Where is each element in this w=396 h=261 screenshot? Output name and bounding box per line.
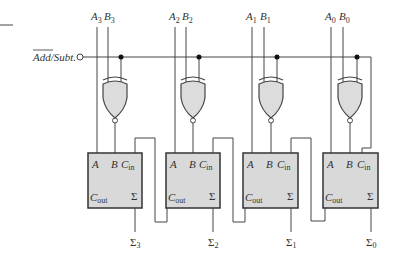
xor-gate-back-arc	[338, 77, 362, 80]
add-subt-control-label: Add/Subt.	[32, 50, 76, 63]
control-bus	[83, 57, 371, 153]
control-input-terminal	[77, 54, 83, 60]
fa-input-a-label: A	[91, 158, 99, 170]
junction-dot	[355, 55, 360, 60]
b3-label: B3	[104, 10, 115, 25]
xnor-gate-icon	[181, 81, 205, 118]
a3-label: A3	[90, 10, 102, 25]
junction-dot	[197, 55, 202, 60]
a1-label: A1	[245, 10, 257, 25]
xor-gate-back-arc	[103, 77, 127, 80]
b2-label: B2	[182, 10, 193, 25]
fa-input-b-label: B	[346, 158, 353, 170]
xor-gate-back-arc	[181, 77, 205, 80]
xnor-gate-icon	[103, 81, 127, 118]
sum1-output-label: Σ1	[286, 236, 296, 250]
junction-dot	[275, 55, 280, 60]
fa-sum-label: Σ	[131, 190, 137, 202]
fa-sum-label: Σ	[367, 190, 373, 202]
inverter-bubble	[191, 118, 196, 123]
sum2-output-label: Σ2	[208, 236, 218, 250]
xor-gate-back-arc	[259, 77, 283, 80]
b0-label: B0	[339, 10, 350, 25]
b1-label: B1	[260, 10, 271, 25]
a2-label: A2	[168, 10, 180, 25]
fa-input-a-label: A	[169, 158, 177, 170]
fa-input-a-label: A	[246, 158, 254, 170]
fa-input-b-label: B	[189, 158, 196, 170]
adder-subtractor-diagram: Add/Subt. A3 B3 A B Cin Cout Σ Σ3 A2 B2	[0, 0, 396, 261]
subt-label: /Subt.	[50, 51, 76, 63]
junction-dot	[119, 55, 124, 60]
inverter-bubble	[269, 118, 274, 123]
fa-input-b-label: B	[111, 158, 118, 170]
fa-input-a-label: A	[326, 158, 334, 170]
xnor-gate-icon	[259, 81, 283, 118]
add-label: Add	[32, 51, 51, 63]
inverter-bubble	[348, 118, 353, 123]
sum3-output-label: Σ3	[130, 236, 140, 250]
stage-0: A0 B0 A B Cin Cout Σ Σ0	[323, 10, 378, 250]
stage-2: A2 B2 A B Cin Cout Σ Σ2	[166, 10, 220, 250]
xnor-gate-icon	[338, 81, 362, 118]
inverter-bubble	[113, 118, 118, 123]
a0-label: A0	[324, 10, 336, 25]
fa-sum-label: Σ	[209, 190, 215, 202]
fa-input-b-label: B	[266, 158, 273, 170]
fa-sum-label: Σ	[287, 190, 293, 202]
sum0-output-label: Σ0	[366, 236, 376, 250]
svg-text:Add/Subt.: Add/Subt.	[32, 51, 76, 63]
stage-1: A1 B1 A B Cin Cout Σ Σ1	[243, 10, 298, 250]
stage-3: A3 B3 A B Cin Cout Σ Σ3	[88, 10, 142, 250]
